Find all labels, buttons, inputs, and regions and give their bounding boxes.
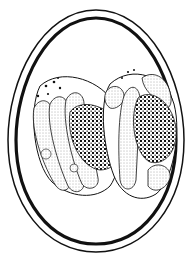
oocyst-figure [0,0,192,262]
oocyst-drawing [0,0,192,262]
